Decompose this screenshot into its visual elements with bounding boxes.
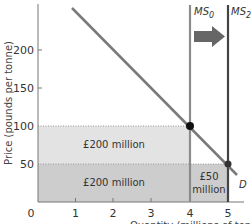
x-tick-label-2: 2 — [110, 207, 117, 220]
area-small-revenue — [190, 164, 228, 202]
ms2-label: MS2 — [231, 6, 251, 20]
equilibrium-point-ms2 — [225, 161, 232, 168]
x-tick-label-5: 5 — [225, 207, 232, 220]
x-tick-label-4: 4 — [187, 207, 194, 220]
x-axis-title: Quantity (millions of tonnes per year) — [130, 220, 252, 224]
right-arrow-icon — [194, 26, 225, 47]
y-tick-label-200: 200 — [13, 44, 34, 57]
chart: 200 150 100 50 0 1 2 3 4 5 Price (pounds… — [0, 0, 252, 224]
y-axis-title: Price (pounds per tonne) — [3, 41, 14, 165]
y-tick-label-100: 100 — [13, 120, 34, 133]
demand-label: D — [239, 179, 247, 190]
y-tick-label-50: 50 — [20, 158, 34, 171]
x-tick-label-1: 1 — [72, 207, 79, 220]
x-tick-label-0: 0 — [28, 207, 35, 220]
area-small-label-line2: million — [192, 184, 225, 195]
x-tick-label-3: 3 — [148, 207, 155, 220]
ms0-label: MS0 — [194, 6, 214, 20]
area-upper-label: £200 million — [83, 139, 145, 150]
area-small-label-line1: £50 — [199, 171, 218, 182]
equilibrium-point-ms0 — [186, 122, 194, 130]
area-lower-label: £200 million — [83, 177, 145, 188]
y-tick-label-150: 150 — [13, 82, 34, 95]
